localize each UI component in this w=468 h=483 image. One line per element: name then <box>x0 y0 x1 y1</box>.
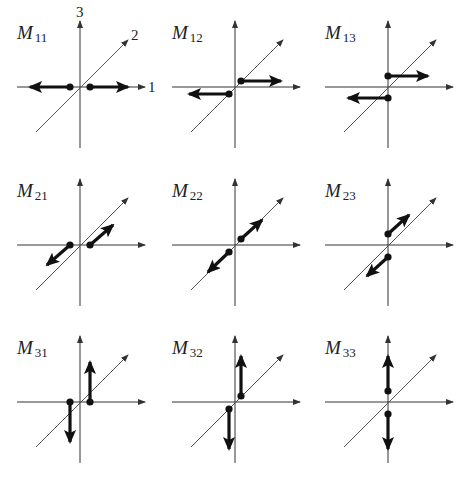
panel-label: M23 <box>324 180 356 203</box>
force-origin-dot <box>384 94 391 101</box>
panel-m13: M13 <box>324 21 453 148</box>
force-origin-dot <box>225 90 232 97</box>
panel-label: M21 <box>16 180 48 203</box>
force-origin-dot <box>237 77 244 84</box>
force-origin-dot <box>66 398 73 405</box>
force-origin-dot <box>384 410 391 417</box>
panel-m31: M31 <box>16 336 145 463</box>
force-origin-dot <box>384 72 391 79</box>
force-arrow <box>208 252 229 272</box>
panel-label: M11 <box>16 22 47 45</box>
force-origin-dot <box>66 83 73 90</box>
force-origin-dot <box>237 235 244 242</box>
panel-label: M32 <box>171 337 203 360</box>
force-arrow <box>388 215 409 234</box>
panel-m21: M21 <box>16 179 145 306</box>
axis-2 <box>191 355 283 447</box>
force-arrow <box>241 220 262 239</box>
force-origin-dot <box>384 387 391 394</box>
panel-label: M31 <box>16 337 48 360</box>
panel-label: M12 <box>171 22 203 45</box>
force-origin-dot <box>86 83 93 90</box>
panel-m12: M12 <box>171 21 300 148</box>
panel-label: M33 <box>324 337 356 360</box>
axis-2 <box>191 40 283 132</box>
axis-2 <box>36 355 128 447</box>
force-origin-dot <box>66 241 73 248</box>
axis-2 <box>344 40 436 132</box>
force-origin-dot <box>225 248 232 255</box>
force-arrow <box>47 245 70 265</box>
panel-m23: M23 <box>324 179 453 306</box>
axis-3-label: 3 <box>76 4 84 20</box>
axis-2-label: 2 <box>131 27 139 43</box>
panel-m22: M22 <box>171 179 300 306</box>
axis-2 <box>36 198 128 290</box>
panel-label: M13 <box>324 22 356 45</box>
panel-m33: M33 <box>324 336 453 463</box>
force-arrow <box>90 225 113 245</box>
axis-2 <box>191 198 283 290</box>
force-origin-dot <box>384 230 391 237</box>
force-arrow <box>367 257 388 276</box>
moment-tensor-diagram: M11123M12M13M21M22M23M31M32M33 <box>0 0 468 483</box>
axis-2 <box>344 355 436 447</box>
panel-m11: M11123 <box>16 4 156 148</box>
force-origin-dot <box>225 405 232 412</box>
force-origin-dot <box>237 392 244 399</box>
panel-m32: M32 <box>171 336 300 463</box>
axis-2 <box>344 198 436 290</box>
axis-1-label: 1 <box>148 79 156 95</box>
force-origin-dot <box>86 398 93 405</box>
force-origin-dot <box>86 241 93 248</box>
force-origin-dot <box>384 253 391 260</box>
panel-label: M22 <box>171 180 203 203</box>
